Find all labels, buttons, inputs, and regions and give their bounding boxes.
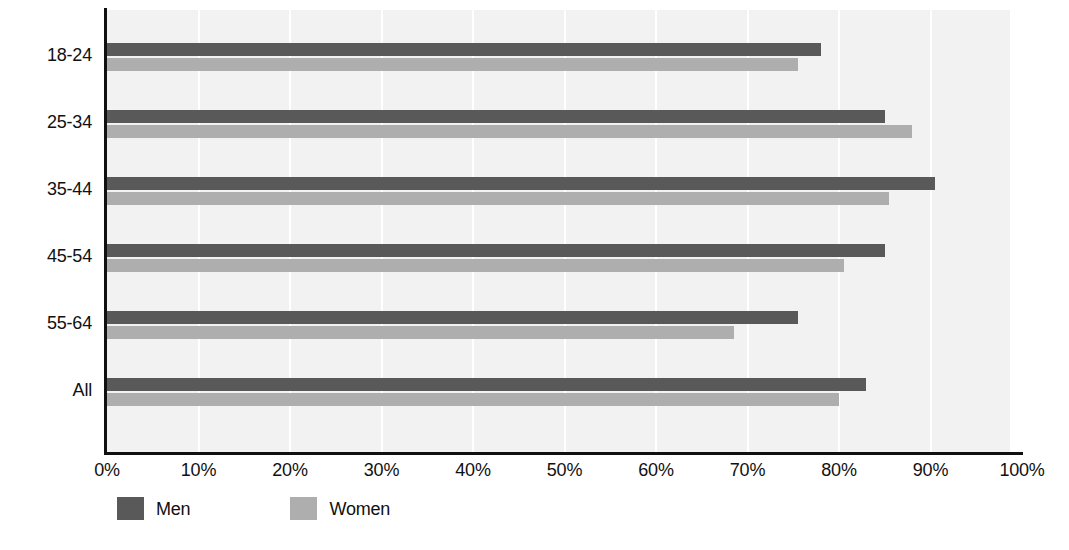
x-axis-tick-40: 40% <box>433 460 513 480</box>
bar-men-45-54[interactable] <box>107 244 885 257</box>
y-axis-label-All: All <box>0 381 92 399</box>
bar-chart: 18-2425-3435-4445-5455-64All 0%10%20%30%… <box>0 0 1069 550</box>
bar-women-35-44[interactable] <box>107 192 889 205</box>
bar-group-55-64 <box>107 311 1010 339</box>
x-axis-tick-10: 10% <box>159 460 239 480</box>
bar-women-18-24[interactable] <box>107 58 798 71</box>
bar-women-All[interactable] <box>107 393 839 406</box>
legend-label-men: Men <box>156 499 190 519</box>
x-axis-tick-60: 60% <box>616 460 696 480</box>
bar-group-All <box>107 378 1010 406</box>
x-axis-tick-0: 0% <box>67 460 147 480</box>
legend-item-men[interactable]: Men <box>117 497 190 520</box>
y-axis-label-25-34: 25-34 <box>0 113 92 131</box>
bar-group-18-24 <box>107 43 1010 71</box>
bar-men-All[interactable] <box>107 378 866 391</box>
bar-men-55-64[interactable] <box>107 311 798 324</box>
y-axis-label-18-24: 18-24 <box>0 46 92 64</box>
bar-men-35-44[interactable] <box>107 177 935 190</box>
bar-group-25-34 <box>107 110 1010 138</box>
legend-swatch-women-icon <box>290 497 317 520</box>
x-axis-tick-30: 30% <box>342 460 422 480</box>
plot-area <box>107 10 1010 452</box>
y-axis-label-35-44: 35-44 <box>0 180 92 198</box>
bar-women-45-54[interactable] <box>107 259 844 272</box>
x-axis-tick-50: 50% <box>525 460 605 480</box>
bar-men-25-34[interactable] <box>107 110 885 123</box>
x-axis-line <box>104 452 1023 455</box>
bar-group-35-44 <box>107 177 1010 205</box>
legend: MenWomen <box>117 497 426 520</box>
x-axis-tick-90: 90% <box>891 460 971 480</box>
gridline-100 <box>1021 10 1023 452</box>
bar-men-18-24[interactable] <box>107 43 821 56</box>
legend-swatch-men-icon <box>117 497 144 520</box>
legend-item-women[interactable]: Women <box>290 497 390 520</box>
x-axis-tick-100: 100% <box>982 460 1062 480</box>
y-axis-label-55-64: 55-64 <box>0 314 92 332</box>
x-axis-tick-70: 70% <box>708 460 788 480</box>
legend-label-women: Women <box>329 499 390 519</box>
bar-women-25-34[interactable] <box>107 125 912 138</box>
y-axis-label-45-54: 45-54 <box>0 247 92 265</box>
y-axis-line <box>104 8 107 454</box>
x-axis-tick-80: 80% <box>799 460 879 480</box>
x-axis-tick-20: 20% <box>250 460 330 480</box>
bar-group-45-54 <box>107 244 1010 272</box>
bar-women-55-64[interactable] <box>107 326 734 339</box>
